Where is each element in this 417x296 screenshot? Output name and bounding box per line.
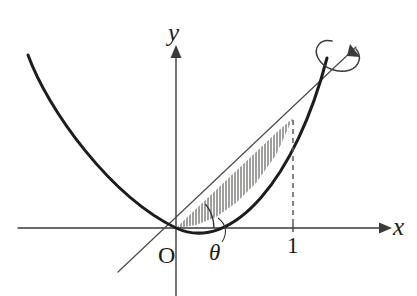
hatched-region [178,100,292,240]
arrow-up-icon [171,45,182,58]
angle-theta-label: θ [209,241,220,264]
origin-label: O [158,243,175,267]
arrow-right-icon [379,223,392,234]
x-tick-label-1: 1 [287,234,299,257]
y-axis-label: y [168,20,179,45]
parabola-curve [28,55,327,233]
x-axis-label: x [393,214,404,239]
math-figure: y x O θ 1 [0,0,417,296]
rotation-loop-arrow-icon [316,40,360,71]
angle-arc [206,204,215,228]
